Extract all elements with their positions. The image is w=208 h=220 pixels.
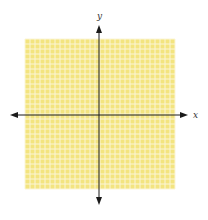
y-axis-down-arrow-icon xyxy=(96,197,102,205)
x-axis-left-arrow-icon xyxy=(10,112,18,118)
grid xyxy=(25,39,175,189)
coordinate-plane: x y xyxy=(0,0,208,220)
y-axis-up-arrow-icon xyxy=(96,25,102,33)
x-axis-label: x xyxy=(193,110,198,120)
y-axis-label: y xyxy=(96,11,103,21)
x-axis-right-arrow-icon xyxy=(180,112,188,118)
